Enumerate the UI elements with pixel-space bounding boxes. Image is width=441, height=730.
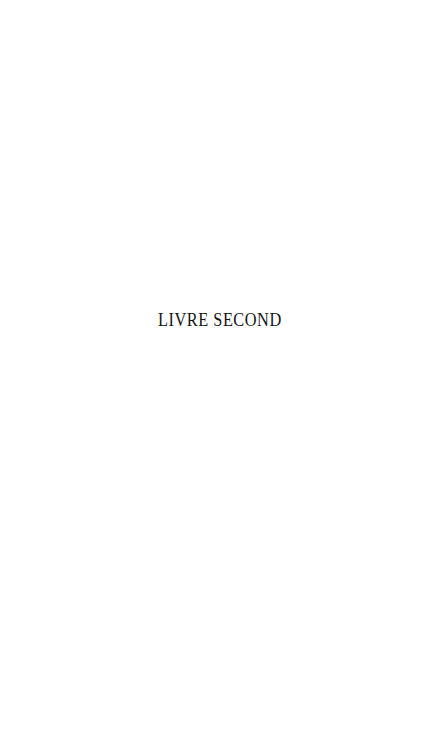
document-page: LIVRE SECOND (0, 0, 441, 730)
part-title: LIVRE SECOND (30, 309, 409, 331)
